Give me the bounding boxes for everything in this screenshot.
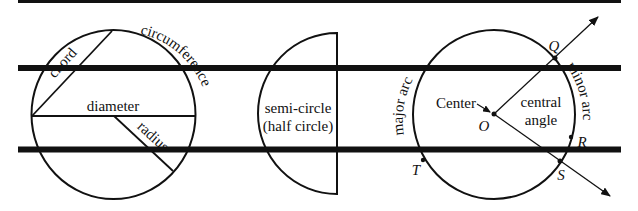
arcs-angles-figure: Center O Q R S T central angle major arc… xyxy=(390,17,610,199)
point-q xyxy=(553,56,558,61)
circle-terminology-diagram: chord circumference diameter radius semi… xyxy=(0,0,638,211)
center-pointer-arrow xyxy=(477,104,490,112)
lower-thick-line xyxy=(18,147,621,153)
chord-label: chord xyxy=(45,44,80,80)
central-angle-label-line1: central xyxy=(521,94,562,110)
circumference-circle xyxy=(32,30,196,199)
point-r xyxy=(569,135,573,139)
central-angle-label-line2: angle xyxy=(525,112,558,128)
circle-parts-figure: chord circumference diameter radius xyxy=(32,21,215,199)
point-t xyxy=(421,158,425,162)
circumference-label: circumference xyxy=(139,21,215,89)
point-o xyxy=(492,112,497,117)
major-arc-label: major arc xyxy=(390,74,416,137)
point-q-label: Q xyxy=(549,38,560,54)
top-guide-line xyxy=(18,0,621,3)
point-o-label: O xyxy=(479,118,490,134)
diameter-label: diameter xyxy=(87,98,139,114)
half-circle-label: (half circle) xyxy=(263,118,333,135)
upper-thick-line xyxy=(18,65,621,71)
point-s-label: S xyxy=(557,167,565,183)
point-s xyxy=(558,159,563,164)
semicircle-label: semi-circle xyxy=(265,100,332,116)
semicircle-figure: semi-circle (half circle) xyxy=(258,33,337,194)
center-label: Center xyxy=(436,95,476,111)
point-r-label: R xyxy=(576,134,586,150)
point-t-label: T xyxy=(412,162,422,178)
